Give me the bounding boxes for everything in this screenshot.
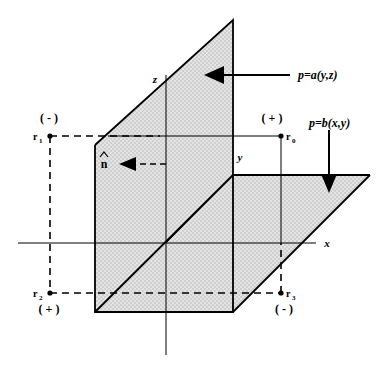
point-r2-dot — [47, 290, 52, 295]
vertical-plane-label: p=a(y,z) — [297, 68, 337, 82]
point-r1-label: r — [33, 131, 38, 142]
point-r3-label-group: r 3 — [286, 288, 296, 302]
point-r1-sign: ( - ) — [40, 111, 58, 125]
x-axis-label: x — [323, 237, 330, 249]
figure-canvas: z y x p=a(y,z) p=b(x,y) n r 0 ( + ) r 1 … — [0, 0, 382, 370]
point-r2-label: r — [33, 288, 38, 299]
point-r0-label: r — [286, 131, 291, 142]
point-r1-dot — [47, 133, 52, 138]
normal-vector-label: n — [101, 157, 108, 171]
point-r2-label-group: r 2 — [33, 288, 43, 302]
point-r1-label-group: r 1 — [33, 131, 43, 145]
point-r2-sign: ( + ) — [39, 302, 60, 316]
point-r1-subscript: 1 — [39, 137, 43, 145]
z-axis-label: z — [152, 73, 158, 85]
point-r3-subscript: 3 — [292, 294, 296, 302]
point-r2-subscript: 2 — [39, 294, 43, 302]
horizontal-plane-label: p=b(x,y) — [308, 116, 350, 130]
point-r0-subscript: 0 — [292, 137, 296, 145]
point-r0-dot — [278, 133, 283, 138]
point-r0-sign: ( + ) — [262, 111, 283, 125]
point-r0-label-group: r 0 — [286, 131, 296, 145]
vertical-plane-surface — [95, 20, 233, 312]
point-r3-dot — [278, 290, 283, 295]
geometry-diagram-svg: z y x p=a(y,z) p=b(x,y) n r 0 ( + ) r 1 … — [0, 0, 382, 370]
y-axis-label: y — [236, 151, 243, 163]
point-r3-label: r — [286, 288, 291, 299]
point-r3-sign: ( - ) — [275, 302, 293, 316]
